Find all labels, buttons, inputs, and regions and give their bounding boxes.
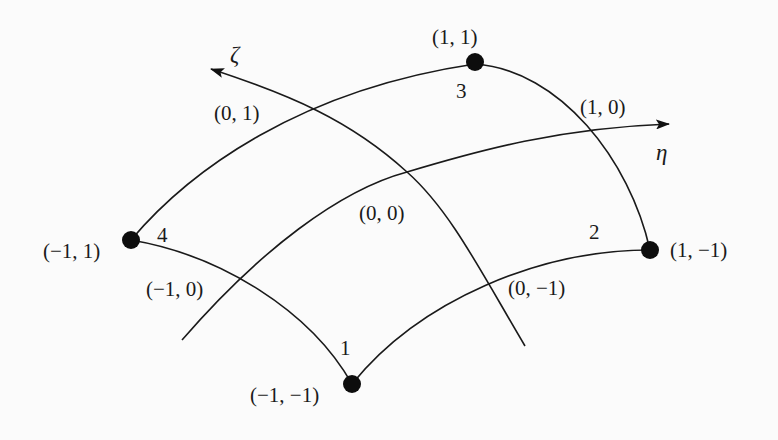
node-4	[122, 231, 140, 249]
node-4-number: 4	[157, 223, 168, 247]
eta-label: η	[656, 140, 667, 165]
node-2-coord: (1, −1)	[670, 238, 727, 262]
node-1-number: 1	[340, 336, 351, 360]
node-1	[343, 375, 361, 393]
midpoint-neg1-0-coord: (−1, 0)	[146, 277, 203, 301]
diagram-svg: ζ η 1 2 3 4 (−1, −1) (1, −1) (1, 1) (−1,…	[0, 0, 778, 440]
node-1-coord: (−1, −1)	[250, 383, 319, 407]
node-4-coord: (−1, 1)	[43, 239, 100, 263]
edge-3-2	[475, 64, 650, 250]
midpoint-0-0-coord: (0, 0)	[359, 201, 405, 225]
node-3-number: 3	[456, 79, 467, 103]
node-3-coord: (1, 1)	[432, 25, 478, 49]
midpoint-0-1-coord: (0, 1)	[214, 101, 260, 125]
midpoint-0-neg1-coord: (0, −1)	[508, 276, 565, 300]
zeta-label: ζ	[230, 42, 241, 67]
node-3	[466, 53, 484, 71]
element-diagram: ζ η 1 2 3 4 (−1, −1) (1, −1) (1, 1) (−1,…	[0, 0, 778, 440]
edge-1-2	[352, 250, 650, 384]
node-2	[641, 241, 659, 259]
node-2-number: 2	[589, 220, 600, 244]
midpoint-1-0-coord: (1, 0)	[580, 95, 626, 119]
edge-4-1	[131, 240, 352, 384]
edge-4-3	[131, 64, 475, 240]
